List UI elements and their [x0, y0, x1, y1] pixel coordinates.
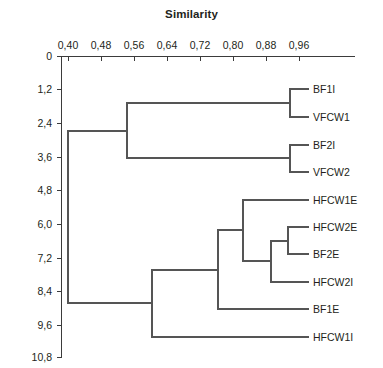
leaf-label-hfcw1i: HFCW1I — [313, 331, 353, 343]
merge-hfcw2e-bf2e-hfcw2i — [271, 241, 309, 282]
merge-bf2i-vfcw2 — [290, 145, 309, 172]
x-tick-label-1: 0,48 — [91, 39, 112, 51]
axis-group — [61, 56, 355, 358]
x-tick-label-3: 0,64 — [157, 39, 178, 51]
y-tick-label-7: 8,4 — [37, 285, 52, 297]
leaf-labels: BF1I VFCW1 BF2I VFCW2 HFCW1E HFCW2E BF2E… — [313, 83, 357, 343]
y-tick-label-2: 2,4 — [37, 117, 52, 129]
x-tick-labels: 0,40 0,48 0,56 0,64 0,72 0,80 0,88 0,96 — [58, 39, 310, 51]
leaf-label-vfcw2: VFCW2 — [313, 166, 350, 178]
leaf-label-bf1e: BF1E — [313, 303, 339, 315]
dendrogram-links — [68, 89, 309, 337]
y-tick-label-8: 9,6 — [37, 319, 52, 331]
x-tick-label-4: 0,72 — [190, 39, 211, 51]
y-tick-label-6: 7,2 — [37, 252, 52, 264]
merge-bf1i-vfcw1 — [290, 89, 309, 117]
leaf-label-bf1i: BF1I — [313, 83, 335, 95]
y-tick-label-5: 6,0 — [37, 218, 52, 230]
leaf-label-bf2e: BF2E — [313, 248, 339, 260]
dendrogram-chart: Similarity 0,40 0,48 0,56 0,64 0,72 0,80… — [0, 0, 383, 368]
leaf-label-bf2i: BF2I — [313, 139, 335, 151]
merge-upper-pairs — [127, 103, 290, 158]
merge-bf1e-cluster — [218, 230, 309, 309]
dendrogram-canvas: 0,40 0,48 0,56 0,64 0,72 0,80 0,88 0,96 … — [0, 0, 383, 368]
leaf-label-hfcw1e: HFCW1E — [313, 194, 357, 206]
leaf-label-hfcw2i: HFCW2I — [313, 276, 353, 288]
x-tick-label-5: 0,80 — [223, 39, 244, 51]
y-tick-label-3: 3,6 — [37, 151, 52, 163]
x-tick-label-6: 0,88 — [256, 39, 277, 51]
leaf-label-hfcw2e: HFCW2E — [313, 221, 357, 233]
y-tick-label-9: 10,8 — [32, 351, 53, 363]
merge-hfcw1i-cluster — [152, 270, 309, 337]
merge-hfcw2e-bf2e — [288, 227, 309, 254]
x-tick-label-2: 0,56 — [124, 39, 145, 51]
leaf-label-vfcw1: VFCW1 — [313, 111, 350, 123]
merge-root — [68, 131, 152, 303]
y-tick-labels: 0 1,2 2,4 3,6 4,8 6,0 7,2 8,4 9,6 10,8 — [32, 50, 53, 363]
x-tick-label-0: 0,40 — [58, 39, 79, 51]
x-tick-label-7: 0,96 — [289, 39, 310, 51]
y-tick-label-4: 4,8 — [37, 184, 52, 196]
y-tick-label-1: 1,2 — [37, 83, 52, 95]
y-tick-label-0: 0 — [46, 50, 52, 62]
merge-hfcw1e-cluster — [243, 200, 309, 261]
